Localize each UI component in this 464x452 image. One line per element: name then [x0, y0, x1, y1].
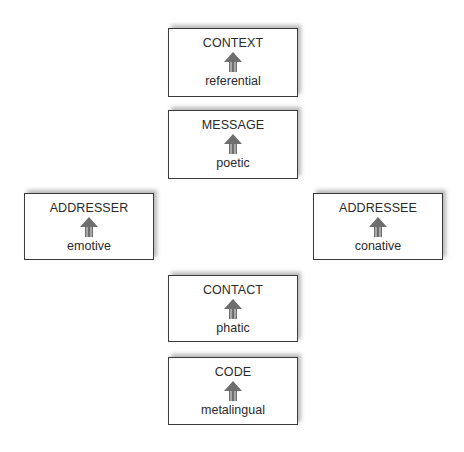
up-arrow-icon [224, 299, 242, 319]
factor-label: CODE [169, 365, 297, 379]
factor-label: CONTACT [169, 283, 297, 297]
factor-label: ADDRESSER [25, 201, 153, 215]
addressee-box: ADDRESSEE conative [313, 193, 443, 260]
contact-box: CONTACT phatic [168, 275, 298, 342]
function-label: conative [314, 239, 442, 253]
communication-functions-diagram: CONTEXT referential MESSAGE poetic ADDRE… [0, 0, 464, 452]
up-arrow-icon [224, 381, 242, 401]
factor-label: CONTEXT [169, 36, 297, 50]
function-label: metalingual [169, 403, 297, 417]
factor-label: MESSAGE [169, 118, 297, 132]
up-arrow-icon [224, 52, 242, 72]
up-arrow-icon [224, 134, 242, 154]
up-arrow-icon [369, 217, 387, 237]
function-label: poetic [169, 156, 297, 170]
code-box: CODE metalingual [168, 357, 298, 425]
message-box: MESSAGE poetic [168, 110, 298, 179]
function-label: phatic [169, 321, 297, 335]
factor-label: ADDRESSEE [314, 201, 442, 215]
addresser-box: ADDRESSER emotive [24, 193, 154, 260]
up-arrow-icon [80, 217, 98, 237]
context-box: CONTEXT referential [168, 28, 298, 97]
function-label: emotive [25, 239, 153, 253]
function-label: referential [169, 74, 297, 88]
